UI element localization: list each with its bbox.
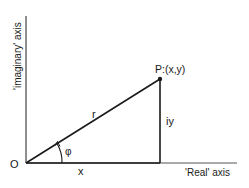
real-part-label: x bbox=[78, 165, 84, 177]
imaginary-axis-label: 'imaginary' axis bbox=[12, 22, 23, 90]
imaginary-part-label: iy bbox=[166, 115, 174, 127]
argand-diagram: O x r iy φ P:(x,y) 'Real' axis 'imaginar… bbox=[0, 0, 249, 188]
real-axis-label: 'Real' axis bbox=[185, 167, 230, 178]
radius-label: r bbox=[92, 108, 96, 120]
angle-phi-label: φ bbox=[65, 146, 72, 157]
radius-line bbox=[26, 79, 160, 163]
origin-label: O bbox=[10, 158, 19, 170]
point-p-marker bbox=[158, 77, 162, 81]
point-p-label: P:(x,y) bbox=[155, 63, 185, 75]
